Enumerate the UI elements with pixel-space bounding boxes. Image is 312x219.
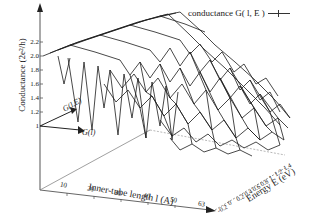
z-tick: 1.6 <box>19 80 39 88</box>
legend-label: conductance G( l, E ) <box>188 8 265 18</box>
z-tick: 2.0 <box>19 52 39 60</box>
z-tick: 1 <box>19 122 39 130</box>
z-tick: 1.4 <box>19 94 39 102</box>
annotation-gl: G(l) <box>82 128 95 137</box>
z-axis-arrow-icon <box>37 3 43 12</box>
z-tick: 1.2 <box>19 108 39 116</box>
z-tick: 2.2 <box>19 38 39 46</box>
legend-line-plus-icon <box>268 13 290 14</box>
wireframe-surface <box>43 12 290 156</box>
z-tick: 1.8 <box>19 66 39 74</box>
x-axis-arrow-icon <box>206 206 216 213</box>
chart-legend: conductance G( l, E ) <box>188 8 290 18</box>
